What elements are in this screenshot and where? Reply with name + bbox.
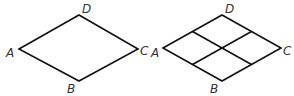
label-c-right: C: [283, 44, 292, 58]
label-a-left: A: [5, 46, 14, 60]
label-b-left: B: [67, 82, 75, 96]
label-d-right: D: [225, 2, 234, 16]
label-c-left: C: [140, 44, 149, 58]
label-a-right: A: [150, 46, 159, 60]
rhombus-plain: [19, 15, 138, 81]
label-b-right: B: [210, 82, 218, 96]
label-d-left: D: [82, 2, 91, 16]
rhombus-diagram: A D C B A D C B: [0, 0, 294, 96]
